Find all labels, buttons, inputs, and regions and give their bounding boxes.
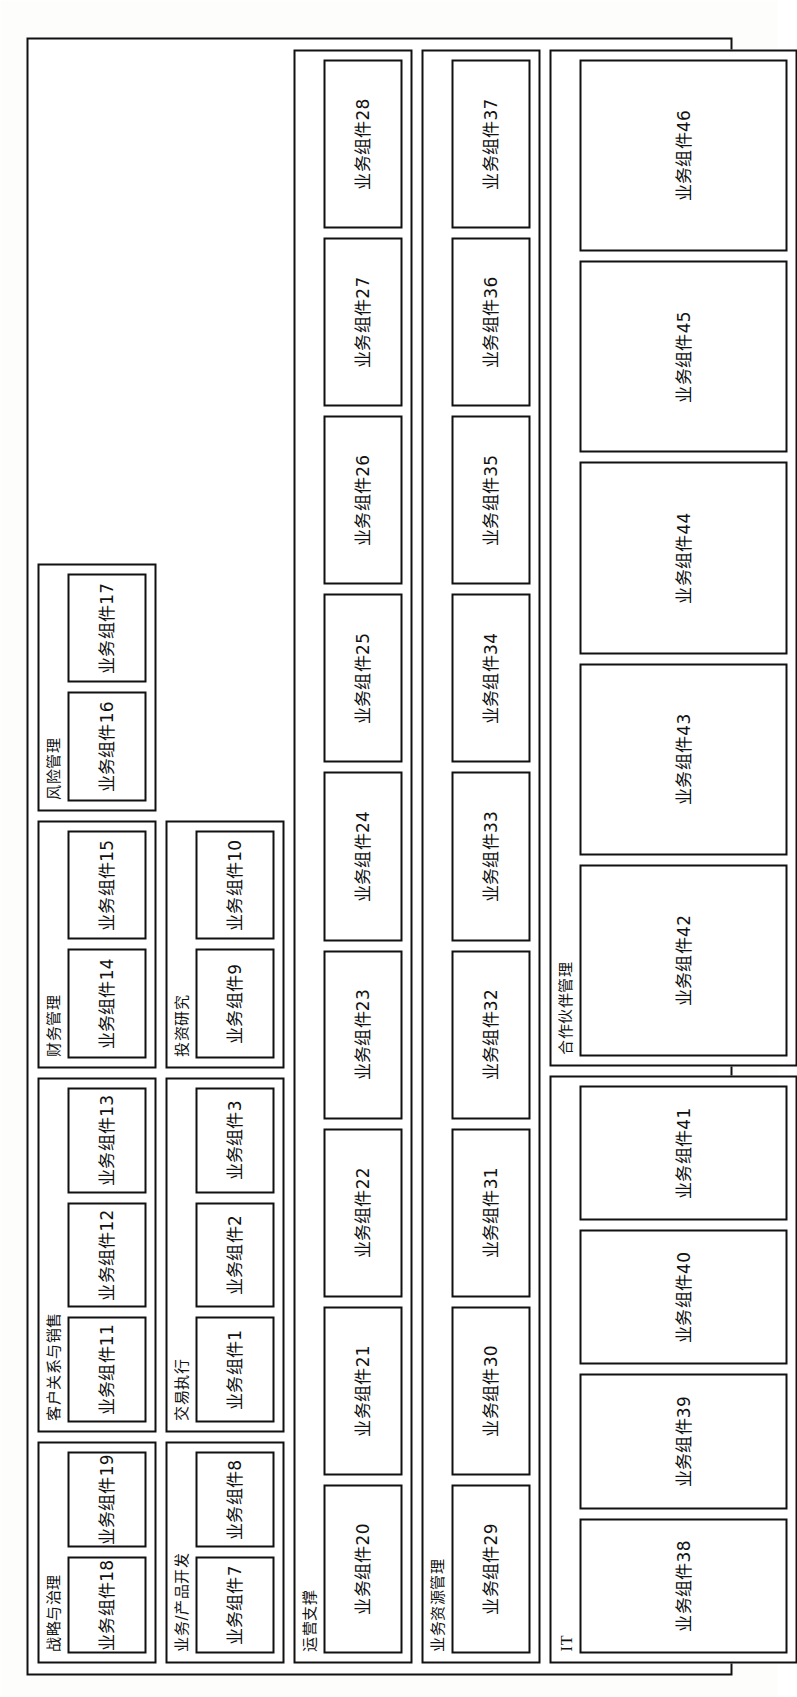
component-cell[interactable]: 业务组件18 [67,1557,146,1654]
group-business-resource-management[interactable]: 业务资源管理 业务组件29 业务组件30 业务组件31 业务组件32 业务组件3… [421,49,540,1663]
group-title: 客户关系与销售 [45,1087,62,1420]
group-title: 交易执行 [173,1087,190,1420]
component-cell[interactable]: 业务组件3 [195,1087,274,1193]
component-cell[interactable]: 业务组件46 [579,59,787,251]
component-cell[interactable]: 业务组件2 [195,1202,274,1308]
component-cell[interactable]: 业务组件26 [323,415,402,584]
component-cell[interactable]: 业务组件15 [67,830,146,940]
group-title: 运营支撑 [301,59,318,1651]
band-row-2: 业务/产品开发 业务组件7 业务组件8 交易执行 业务组件1 业务组件2 业务组… [165,49,284,1663]
band-2-filler [165,49,284,811]
component-cell[interactable]: 业务组件14 [67,949,146,1059]
component-cell[interactable]: 业务组件28 [323,59,402,228]
group-trade-execution[interactable]: 交易执行 业务组件1 业务组件2 业务组件3 [165,1077,284,1432]
component-cell[interactable]: 业务组件29 [451,1484,530,1653]
component-map-frame: 战略与治理 业务组件18 业务组件19 客户关系与销售 业务组件11 业务组件1… [26,37,732,1675]
component-cell[interactable]: 业务组件31 [451,1128,530,1297]
band-1-filler [37,49,156,554]
group-components: 业务组件16 业务组件17 [67,573,146,801]
component-cell[interactable]: 业务组件25 [323,593,402,762]
group-title: 战略与治理 [45,1451,62,1651]
component-cell[interactable]: 业务组件38 [579,1518,787,1653]
component-cell[interactable]: 业务组件7 [195,1557,274,1654]
component-cell[interactable]: 业务组件40 [579,1229,787,1364]
component-cell[interactable]: 业务组件30 [451,1306,530,1475]
group-title: IT [557,1085,574,1651]
group-title: 合作伙伴管理 [557,59,574,1054]
component-cell[interactable]: 业务组件9 [195,949,274,1059]
component-cell[interactable]: 业务组件39 [579,1374,787,1509]
group-components: 业务组件20 业务组件21 业务组件22 业务组件23 业务组件24 业务组件2… [323,59,402,1653]
group-partner-management[interactable]: 合作伙伴管理 业务组件42 业务组件43 业务组件44 业务组件45 业务组件4… [549,49,797,1066]
group-components: 业务组件29 业务组件30 业务组件31 业务组件32 业务组件33 业务组件3… [451,59,530,1653]
component-cell[interactable]: 业务组件24 [323,771,402,940]
band-row-1: 战略与治理 业务组件18 业务组件19 客户关系与销售 业务组件11 业务组件1… [37,49,156,1663]
group-title: 风险管理 [45,573,62,799]
component-cell[interactable]: 业务组件33 [451,771,530,940]
component-cell[interactable]: 业务组件13 [67,1087,146,1193]
component-cell[interactable]: 业务组件42 [579,864,787,1056]
component-cell[interactable]: 业务组件11 [67,1316,146,1422]
component-cell[interactable]: 业务组件12 [67,1202,146,1308]
group-it[interactable]: IT 业务组件38 业务组件39 业务组件40 业务组件41 [549,1075,797,1663]
component-cell[interactable]: 业务组件16 [67,692,146,802]
component-cell[interactable]: 业务组件20 [323,1484,402,1653]
group-financial-management[interactable]: 财务管理 业务组件14 业务组件15 [37,820,156,1068]
component-cell[interactable]: 业务组件32 [451,950,530,1119]
group-components: 业务组件14 业务组件15 [67,830,146,1058]
group-title: 业务/产品开发 [173,1451,190,1651]
component-cell[interactable]: 业务组件22 [323,1128,402,1297]
group-strategy-governance[interactable]: 战略与治理 业务组件18 业务组件19 [37,1441,156,1663]
component-cell[interactable]: 业务组件21 [323,1306,402,1475]
component-cell[interactable]: 业务组件43 [579,663,787,855]
group-operations-support[interactable]: 运营支撑 业务组件20 业务组件21 业务组件22 业务组件23 业务组件24 … [293,49,412,1663]
component-cell[interactable]: 业务组件23 [323,950,402,1119]
component-cell[interactable]: 业务组件36 [451,237,530,406]
component-cell[interactable]: 业务组件34 [451,593,530,762]
group-components: 业务组件7 业务组件8 [195,1451,274,1653]
component-cell[interactable]: 业务组件37 [451,59,530,228]
component-cell[interactable]: 业务组件10 [195,830,274,940]
component-cell[interactable]: 业务组件1 [195,1316,274,1422]
group-components: 业务组件42 业务组件43 业务组件44 业务组件45 业务组件46 [579,59,787,1056]
group-components: 业务组件38 业务组件39 业务组件40 业务组件41 [579,1085,787,1653]
band-row-4: 业务资源管理 业务组件29 业务组件30 业务组件31 业务组件32 业务组件3… [421,49,540,1663]
group-customer-relations-sales[interactable]: 客户关系与销售 业务组件11 业务组件12 业务组件13 [37,1077,156,1432]
group-title: 财务管理 [45,830,62,1056]
component-cell[interactable]: 业务组件17 [67,573,146,683]
group-components: 业务组件9 业务组件10 [195,830,274,1058]
group-components: 业务组件11 业务组件12 业务组件13 [67,1087,146,1422]
component-cell[interactable]: 业务组件27 [323,237,402,406]
band-row-3: 运营支撑 业务组件20 业务组件21 业务组件22 业务组件23 业务组件24 … [293,49,412,1663]
group-components: 业务组件1 业务组件2 业务组件3 [195,1087,274,1422]
group-title: 业务资源管理 [429,59,446,1651]
band-row-5: IT 业务组件38 业务组件39 业务组件40 业务组件41 合作伙伴管理 业务… [549,49,797,1663]
component-cell[interactable]: 业务组件44 [579,461,787,653]
group-title: 投资研究 [173,830,190,1056]
component-cell[interactable]: 业务组件8 [195,1451,274,1548]
group-investment-research[interactable]: 投资研究 业务组件9 业务组件10 [165,820,284,1068]
group-business-product-development[interactable]: 业务/产品开发 业务组件7 业务组件8 [165,1441,284,1663]
component-cell[interactable]: 业务组件41 [579,1085,787,1220]
component-cell[interactable]: 业务组件19 [67,1451,146,1548]
group-components: 业务组件18 业务组件19 [67,1451,146,1653]
component-cell[interactable]: 业务组件35 [451,415,530,584]
component-cell[interactable]: 业务组件45 [579,260,787,452]
group-risk-management[interactable]: 风险管理 业务组件16 业务组件17 [37,563,156,811]
